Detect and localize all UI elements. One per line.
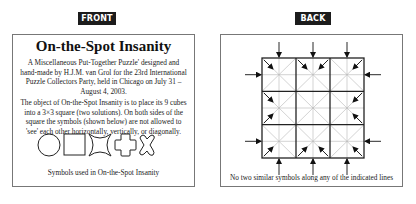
- front-badge: FRONT: [78, 12, 116, 25]
- front-panel: On-the-Spot Insanity A Miscellaneous Put…: [12, 34, 195, 187]
- arrow-diagonal-icon: [264, 147, 273, 156]
- arrow-diagonal-icon: [319, 147, 328, 156]
- intro-paragraph: A Miscellaneous Put-Together Puzzle' des…: [19, 58, 188, 96]
- arrow-diagonal-icon: [353, 60, 362, 69]
- circle-icon: [38, 134, 60, 156]
- arrow-diagonal-icon: [353, 93, 362, 102]
- arrow-diagonal-icon: [298, 60, 307, 69]
- four-point-star-icon: [89, 134, 111, 156]
- constraint-grid-diagram: [220, 34, 403, 187]
- arrow-diagonal-icon: [264, 60, 273, 69]
- arrow-diagonal-icon: [353, 147, 362, 156]
- rounded-x-icon: [140, 135, 155, 155]
- arrow-diagonal-icon: [264, 114, 273, 123]
- object-paragraph: The object of On-the-Spot Insanity is to…: [19, 98, 188, 136]
- puzzle-title: On-the-Spot Insanity: [13, 38, 194, 55]
- arrow-diagonal-icon: [319, 60, 328, 69]
- arrow-diagonal-icon: [298, 147, 307, 156]
- rounded-cross-icon: [115, 134, 136, 156]
- arrow-diagonal-icon: [264, 93, 273, 102]
- back-panel: No two similar symbols along any of the …: [220, 34, 403, 187]
- grid-caption: No two similar symbols along any of the …: [221, 173, 402, 182]
- symbols-caption: Symbols used in On-the-Spot Insanity: [13, 168, 194, 177]
- back-badge: BACK: [295, 12, 331, 25]
- symbols-row: [37, 132, 155, 158]
- square-icon: [64, 134, 85, 155]
- arrow-diagonal-icon: [353, 114, 362, 123]
